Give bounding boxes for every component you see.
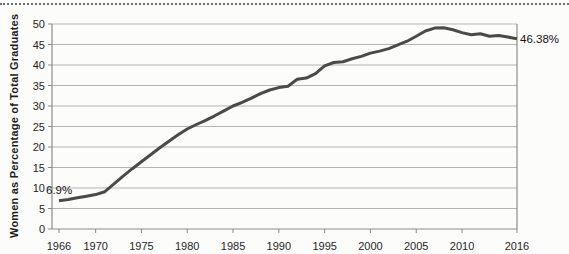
y-tick-label-15: 15	[33, 162, 45, 174]
y-tick-label-35: 35	[33, 80, 45, 92]
y-tick-label-5: 5	[39, 203, 45, 215]
x-tick-label-2000: 2000	[358, 240, 382, 252]
line-chart: 0510152025303540455019661970197519801985…	[0, 0, 569, 254]
x-tick-label-1970: 1970	[83, 240, 107, 252]
x-tick-label-2016: 2016	[505, 240, 529, 252]
x-tick-label-1975: 1975	[129, 240, 153, 252]
y-tick-label-25: 25	[33, 121, 45, 133]
start-value-annotation: 6.9%	[46, 184, 72, 196]
y-tick-label-0: 0	[39, 223, 45, 235]
y-tick-label-20: 20	[33, 141, 45, 153]
y-tick-label-30: 30	[33, 100, 45, 112]
end-value-annotation: 46.38%	[520, 33, 559, 45]
x-tick-label-1990: 1990	[267, 240, 291, 252]
x-tick-label-1985: 1985	[221, 240, 245, 252]
x-tick-label-2010: 2010	[450, 240, 474, 252]
x-tick-label-1980: 1980	[175, 240, 199, 252]
x-tick-label-1966: 1966	[47, 240, 71, 252]
y-tick-label-45: 45	[33, 39, 45, 51]
y-tick-label-40: 40	[33, 59, 45, 71]
chart-figure: Women as Percentage of Total Graduates 0…	[0, 0, 569, 254]
x-tick-label-1995: 1995	[312, 240, 336, 252]
y-tick-label-50: 50	[33, 18, 45, 30]
y-tick-label-10: 10	[33, 182, 45, 194]
trend-line	[59, 28, 517, 201]
x-tick-label-2005: 2005	[404, 240, 428, 252]
